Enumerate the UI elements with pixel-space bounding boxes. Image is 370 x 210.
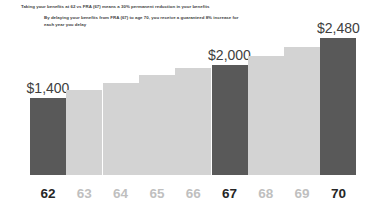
bar-66 <box>175 68 211 175</box>
axis-label-62: 62 <box>40 186 55 201</box>
bar-68 <box>248 56 284 175</box>
bar-70 <box>320 38 356 175</box>
axis-label-64: 64 <box>113 186 128 201</box>
bar-63 <box>66 90 102 175</box>
value-label-67: $2,000 <box>208 47 251 63</box>
axis-label-65: 65 <box>149 186 164 201</box>
axis-label-68: 68 <box>258 186 273 201</box>
bar-65 <box>139 75 175 175</box>
axis-label-63: 63 <box>77 186 92 201</box>
axis-label-70: 70 <box>331 186 346 201</box>
axis-label-66: 66 <box>186 186 201 201</box>
bar-64 <box>103 83 139 175</box>
axis-label-67: 67 <box>222 186 237 201</box>
bar-62 <box>30 98 66 175</box>
slide-canvas: Taking your benefits at 62 vs FRA (67) m… <box>0 0 370 210</box>
value-label-70: $2,480 <box>317 20 360 36</box>
value-label-62: $1,400 <box>27 80 70 96</box>
bar-67 <box>212 65 248 175</box>
axis-label-69: 69 <box>295 186 310 201</box>
bar-69 <box>284 47 320 175</box>
bar-chart: $1,4006263646566$2,000676869$2,48070 <box>0 0 370 210</box>
